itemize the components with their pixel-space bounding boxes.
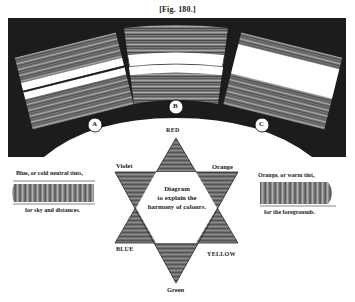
swatch-label-a: A [92,120,97,128]
vertex-label-green: Green [167,286,184,293]
right-caption-top: Orange, or warm tint, [258,172,314,178]
vertex-label-red: RED [166,127,180,133]
swatch-b [124,25,228,104]
right-caption-bottom: for the foregrounds. [264,209,315,215]
left-caption-top: Blue, or cold neutral tints, [16,170,83,176]
vertex-label-violet: Violet [116,162,132,169]
diagram-artwork [0,0,355,302]
center-line-3: harmony of colours. [140,202,214,211]
swatch-label-b: B [173,102,178,110]
left-tint-sample [12,181,95,204]
center-line-2: to explain the [140,193,214,202]
left-caption-bottom: for sky and distances. [25,207,80,213]
right-tint-sample [260,182,336,206]
vertex-label-yellow: YELLOW [207,251,236,257]
star-center-caption: Diagram to explain the harmony of colour… [140,184,214,211]
center-line-1: Diagram [140,184,214,193]
vertex-label-orange: Orange [212,163,233,170]
vertex-label-blue: BLUE [116,246,134,252]
swatch-label-c: C [259,120,264,128]
